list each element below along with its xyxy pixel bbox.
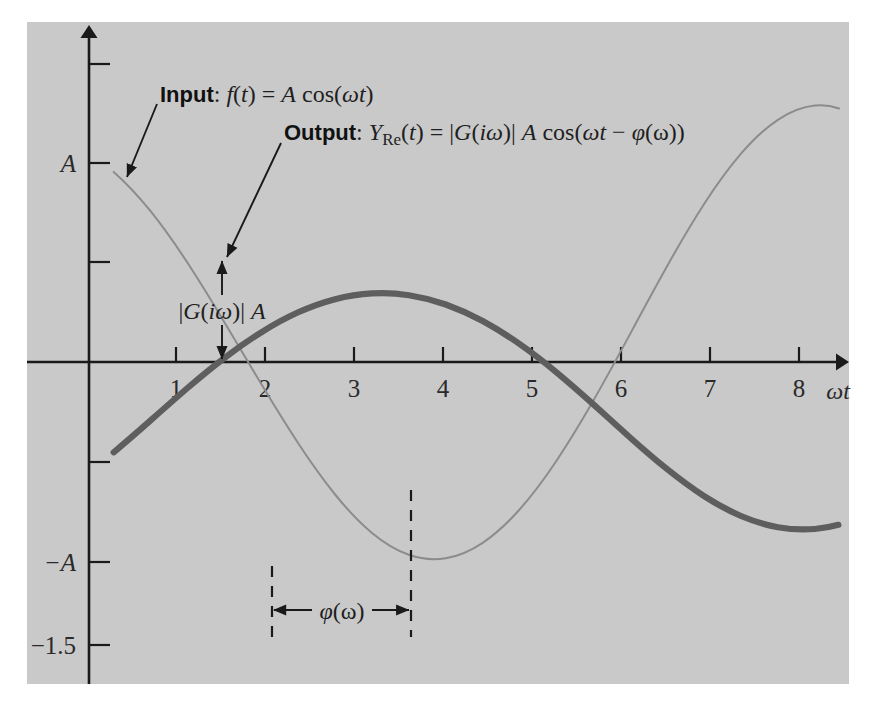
output-label-G: G [454,119,471,145]
input-label-omega-t: ωt [342,81,367,107]
amp-G: G [183,298,200,324]
output-label-barA: )| [503,119,522,145]
y-tick-label-neg-1p5: −1.5 [31,632,76,659]
input-label-paren-t: ( [233,81,241,107]
output-label-phi-arg: (ω)) [645,119,685,145]
y-tick-label-neg-A: −A [44,549,77,576]
x-ticks-group: 1 2 3 4 5 6 7 8 ωt [170,347,851,404]
output-label-open: ( [401,119,409,145]
output-callout-arrow [227,143,281,257]
x-axis-label: ωt [826,378,851,404]
input-label-cos: cos( [296,81,342,107]
x-tick-label-7: 7 [704,375,717,402]
amp-bar2: )| [232,298,251,324]
output-label-bold: Output [284,120,357,145]
x-tick-label-4: 4 [437,375,450,402]
phase-annotation-label: φ(ω) [319,598,364,624]
x-tick-label-3: 3 [348,375,361,402]
phase-arg: (ω) [333,598,365,624]
output-label-colon: : [356,119,363,145]
input-label-bold: Input [160,82,214,107]
output-label-phi: φ [632,119,645,145]
input-label-close: ) [366,81,374,107]
input-callout-label: Input: f(t) = A cos(ωt) [160,81,374,107]
input-callout-arrow [127,104,157,177]
amp-open: ( [201,298,209,324]
chart-svg: 1 2 3 4 5 6 7 8 ωt A −A −1.5 [0,0,881,708]
input-label-A: A [279,81,296,107]
output-label-Re: Re [382,130,401,149]
output-label-open2: ( [471,119,479,145]
amp-A: A [249,298,266,324]
input-label-eq: ) = [248,81,282,107]
output-callout-label: Output: YRe(t) = |G(iω)| A cos(ωt − φ(ω)… [284,119,685,149]
x-tick-label-5: 5 [526,375,539,402]
amp-iomega: iω [209,298,233,324]
output-label-cos: cos( [536,119,582,145]
output-label-iomega: iω [479,119,503,145]
phase-phi: φ [319,598,332,624]
x-tick-label-8: 8 [793,375,806,402]
output-label-eq-bar: ) = | [416,119,454,145]
x-tick-label-6: 6 [615,375,628,402]
y-tick-label-A: A [59,150,77,177]
x-axis-arrowhead [836,354,849,371]
figure-container: 1 2 3 4 5 6 7 8 ωt A −A −1.5 [0,0,881,708]
output-label-omega-t: ωt [582,119,607,145]
y-axis-arrowhead [81,25,98,38]
output-label-minus: − [606,119,632,145]
amplitude-annotation-label: |G(iω)| A [178,298,266,324]
input-label-colon: : [214,81,221,107]
output-label-A: A [520,119,537,145]
